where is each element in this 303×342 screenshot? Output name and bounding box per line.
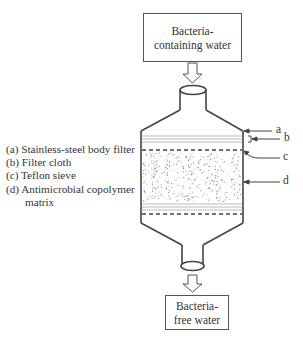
callout-c: c	[283, 150, 288, 162]
legend-item-d-continuation: matrix	[6, 196, 135, 209]
outflow-arrow-icon	[183, 275, 202, 292]
callout-a: a	[276, 123, 281, 135]
legend-item-d: (d) Antimicrobial copolymer	[6, 183, 135, 196]
inlet-opening	[180, 86, 206, 95]
callout-b: b	[284, 131, 290, 143]
input-box: Bacteria- containing water	[143, 13, 242, 62]
copolymer-matrix	[142, 152, 241, 202]
output-box-line1: Bacteria-	[176, 299, 218, 313]
legend-item-a: (a) Stainless-steel body filter	[6, 143, 135, 156]
outlet-opening	[181, 262, 204, 271]
output-box: Bacteria- free water	[165, 295, 229, 330]
callout-d: d	[283, 174, 289, 186]
input-box-line2: containing water	[154, 38, 231, 52]
legend-item-b: (b) Filter cloth	[6, 156, 135, 169]
filter-housing	[141, 86, 243, 271]
filter-cloth-bottom	[142, 204, 242, 210]
legend-item-c: (c) Teflon sieve	[6, 169, 135, 182]
inflow-arrow-icon	[183, 63, 202, 83]
callout-arrows	[244, 129, 280, 184]
input-box-line1: Bacteria-	[171, 24, 213, 38]
filter-cloth-top	[142, 136, 242, 142]
output-box-line2: free water	[174, 313, 220, 327]
legend: (a) Stainless-steel body filter (b) Filt…	[6, 143, 135, 209]
